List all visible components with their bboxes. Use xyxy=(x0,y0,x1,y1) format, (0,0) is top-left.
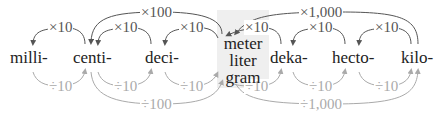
label-x10-hecto-deka: ×10 xyxy=(308,20,333,35)
label-div10-deci-base: ÷10 xyxy=(179,79,204,94)
label-div1000-base-kilo: ÷1,000 xyxy=(299,97,343,112)
label-div10-hecto-kilo: ÷10 xyxy=(374,79,399,94)
label-x10-base-deci: ×10 xyxy=(179,20,204,35)
label-x1000-kilo-base: ×1,000 xyxy=(299,5,343,20)
label-x10-deka-base: ×10 xyxy=(244,20,269,35)
unit-deci: deci- xyxy=(145,49,179,66)
base-unit-meter: meter xyxy=(217,35,269,52)
label-x10-deci-centi: ×10 xyxy=(113,20,138,35)
label-x10-centi-milli: ×10 xyxy=(48,20,73,35)
label-div100-centi-base: ÷100 xyxy=(140,97,173,112)
base-unit-liter: liter xyxy=(217,52,269,69)
unit-hecto: hecto- xyxy=(332,49,374,66)
base-unit-gram: gram xyxy=(217,69,269,86)
unit-deka: deka- xyxy=(270,49,308,66)
label-x10-kilo-hecto: ×10 xyxy=(374,20,399,35)
metric-prefix-conversion-diagram: ×10 ×10 ×10 ×10 ×10 ×10 ×100 ×1,000 ÷10 … xyxy=(0,0,442,119)
label-div10-centi-deci: ÷10 xyxy=(113,79,138,94)
label-div10-deka-hecto: ÷10 xyxy=(308,79,333,94)
label-div10-milli-centi: ÷10 xyxy=(48,79,73,94)
label-x100-base-centi: ×100 xyxy=(140,5,173,20)
unit-centi: centi- xyxy=(73,49,112,66)
unit-kilo: kilo- xyxy=(401,49,433,66)
unit-milli: milli- xyxy=(10,49,48,66)
